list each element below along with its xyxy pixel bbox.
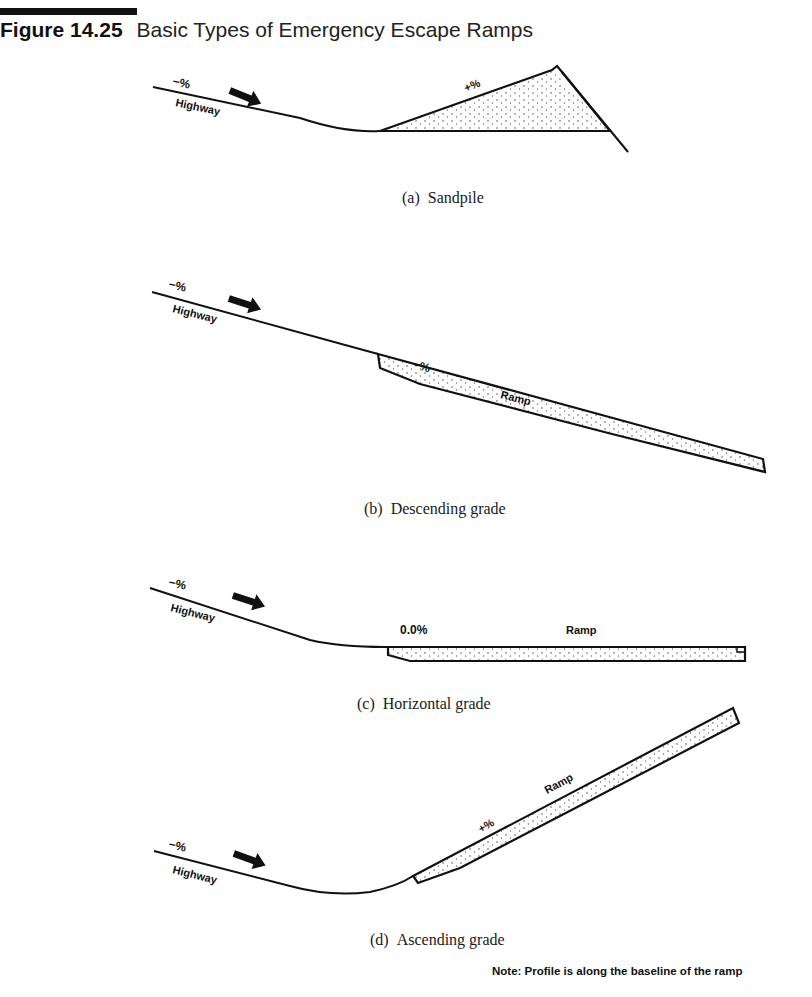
highway-grade-label: −%: [167, 837, 188, 854]
panel-d-ascending: −% Highway +% Ramp: [154, 708, 739, 894]
highway-label: Highway: [170, 601, 218, 624]
escape-ramps-diagram: −% Highway +% −% Highway −% Ramp −% High…: [0, 0, 812, 997]
caption-d: (d)Ascending grade: [370, 931, 505, 949]
footnote: Note: Profile is along the baseline of t…: [492, 965, 742, 977]
panel-b-descending: −% Highway −% Ramp: [152, 277, 765, 472]
ramp-grade-label: 0.0%: [400, 623, 428, 637]
highway-line: [152, 292, 378, 354]
highway-grade-label: −%: [171, 74, 192, 91]
caption-c: (c)Horizontal grade: [357, 695, 491, 713]
ramp-fill: [385, 647, 745, 661]
highway-grade-label: −%: [167, 575, 188, 592]
sandpile-fill: [380, 70, 610, 131]
direction-arrow-icon: [231, 845, 269, 873]
ramp-grade-label: +%: [476, 816, 496, 835]
highway-label: Highway: [172, 302, 220, 325]
highway-grade-label: −%: [167, 277, 188, 294]
ramp-grade-label: +%: [462, 77, 482, 94]
direction-arrow-icon: [230, 587, 268, 614]
ramp-fill: [413, 708, 739, 883]
panel-a-sandpile: −% Highway +%: [153, 66, 628, 152]
highway-line: [150, 588, 385, 647]
ramp-fill: [378, 354, 765, 472]
caption-b: (b)Descending grade: [364, 500, 506, 518]
caption-a: (a)Sandpile: [402, 189, 484, 207]
ramp-label: Ramp: [542, 771, 575, 796]
panel-c-horizontal: −% Highway 0.0% Ramp: [150, 575, 745, 661]
ramp-label: Ramp: [566, 624, 597, 636]
